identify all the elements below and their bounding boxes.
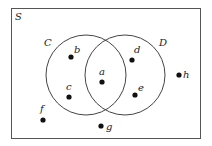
point-f-dot [40, 117, 45, 122]
set-label-c: C [44, 37, 52, 48]
point-c-dot [66, 94, 71, 99]
point-g-label: g [106, 121, 112, 132]
set-label-d: D [158, 37, 167, 48]
point-e-dot [132, 92, 137, 97]
point-d-dot [129, 57, 134, 62]
point-d-label: d [134, 44, 140, 55]
point-g-dot [98, 123, 103, 128]
point-h-dot [176, 72, 181, 77]
points-group: abcdefgh [39, 44, 189, 132]
set-circle-d [85, 35, 165, 115]
point-h-label: h [183, 69, 189, 80]
sets-group: CD [44, 35, 167, 115]
universe-label: S [15, 11, 22, 22]
point-a-dot [99, 79, 104, 84]
point-c-label: c [66, 81, 72, 92]
point-b-label: b [74, 44, 80, 55]
point-b-dot [68, 54, 73, 59]
point-f-label: f [39, 103, 46, 114]
venn-diagram: S CD abcdefgh [0, 0, 212, 146]
point-a-label: a [99, 66, 105, 77]
point-e-label: e [138, 82, 144, 93]
universe-set-s [12, 9, 201, 139]
set-circle-c [46, 35, 126, 115]
